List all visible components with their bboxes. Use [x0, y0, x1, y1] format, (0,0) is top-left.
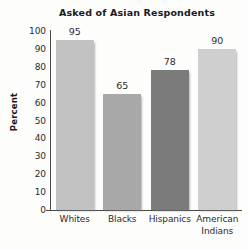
y-tick-label-50: 50	[20, 116, 46, 126]
bar-hispanics	[151, 70, 189, 210]
bar-blacks	[103, 94, 141, 210]
y-tick-label-30: 30	[20, 151, 46, 161]
chart-title: Asked of Asian Respondents	[30, 7, 244, 18]
bar-american-indians	[198, 49, 236, 210]
x-category-line: Whites	[60, 214, 90, 226]
x-category-line: Hispanics	[149, 214, 191, 226]
y-tick-label-100: 100	[20, 26, 46, 36]
x-category-line: American	[196, 214, 238, 226]
y-tick-label-60: 60	[20, 98, 46, 108]
bar-value-label-american-indians: 90	[211, 35, 223, 46]
y-tick-label-70: 70	[20, 80, 46, 90]
y-axis-tick-labels: 1009080706050403020100	[18, 0, 46, 250]
bar-value-label-hispanics: 78	[164, 56, 176, 67]
y-tick-label-10: 10	[20, 187, 46, 197]
y-tick-label-20: 20	[20, 169, 46, 179]
x-category-line: Blacks	[108, 214, 136, 226]
y-tick-label-0: 0	[20, 205, 46, 215]
bar-value-label-whites: 95	[69, 26, 81, 37]
x-axis-line	[46, 210, 242, 211]
bar-whites	[56, 40, 94, 210]
x-category-label-whites: Whites	[60, 214, 90, 226]
x-category-label-american-indians: AmericanIndians	[196, 214, 238, 237]
y-tick-label-80: 80	[20, 62, 46, 72]
bar-chart-figure: Asked of Asian Respondents Percent 10090…	[0, 0, 248, 250]
x-category-label-blacks: Blacks	[108, 214, 136, 226]
y-tick-label-90: 90	[20, 44, 46, 54]
x-category-label-hispanics: Hispanics	[149, 214, 191, 226]
bar-value-label-blacks: 65	[116, 80, 128, 91]
x-category-line: Indians	[196, 226, 238, 238]
y-tick-label-40: 40	[20, 133, 46, 143]
